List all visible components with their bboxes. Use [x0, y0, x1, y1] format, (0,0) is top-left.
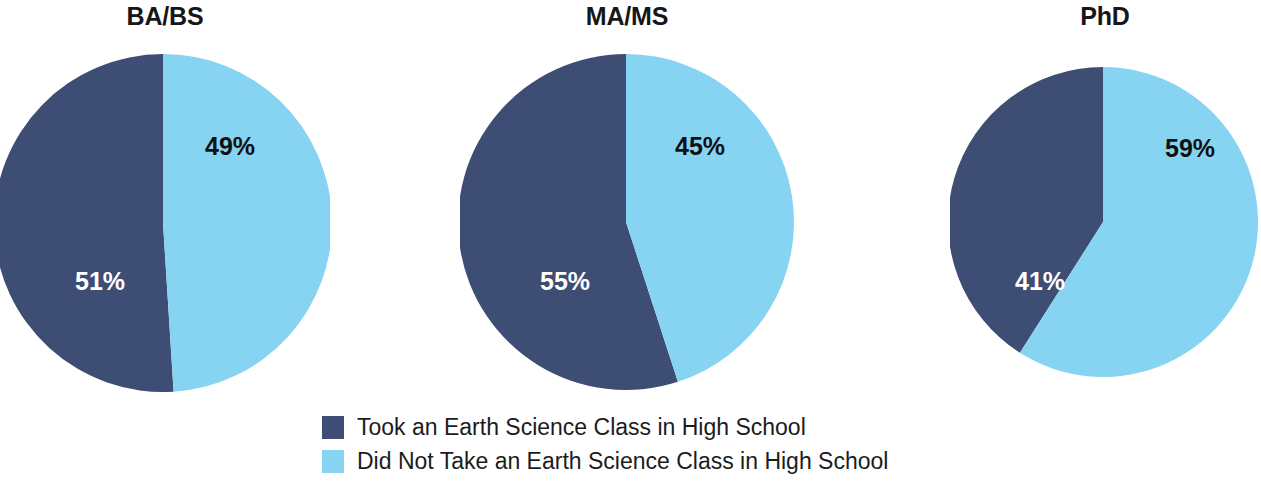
pie-slice-value-label: 55% [540, 269, 590, 294]
pie-slice-did-not-take-class [163, 54, 330, 392]
pie-slice-value-label: 49% [205, 134, 255, 159]
chart-legend: Took an Earth Science Class in High Scho… [322, 410, 888, 478]
legend-item-label: Did Not Take an Earth Science Class in H… [357, 450, 888, 473]
legend-item-label: Took an Earth Science Class in High Scho… [357, 416, 806, 439]
pie-slice-value-label: 51% [75, 269, 125, 294]
legend-item-took-class: Took an Earth Science Class in High Scho… [322, 410, 888, 444]
pie-chart-1: BA/BS51%49% [0, 0, 330, 410]
pie-slice-took-class [0, 54, 174, 392]
legend-swatch-icon [322, 450, 344, 473]
pie-slices [0, 0, 330, 410]
legend-item-did-not-take-class: Did Not Take an Earth Science Class in H… [322, 444, 888, 478]
pie-slices [460, 0, 794, 410]
pie-chart-3: PhD41%59% [950, 0, 1260, 410]
legend-swatch-icon [322, 416, 344, 439]
pie-slice-value-label: 45% [675, 134, 725, 159]
pie-chart-2: MA/MS55%45% [460, 0, 794, 410]
pie-slice-value-label: 59% [1165, 136, 1215, 161]
pie-chart-figure: BA/BS51%49%MA/MS55%45%PhD41%59%Took an E… [0, 0, 1261, 483]
pie-slice-value-label: 41% [1015, 269, 1065, 294]
pie-slices [950, 0, 1260, 410]
